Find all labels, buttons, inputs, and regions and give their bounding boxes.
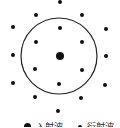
legend: 入射波 衍射波 [0, 120, 120, 127]
grid-dot [104, 54, 108, 58]
grid-dot [34, 40, 38, 44]
small-dot-icon [78, 125, 82, 128]
grid-dot [11, 53, 15, 57]
legend-item-diffracted: 衍射波 [78, 120, 114, 127]
grid-dot [34, 13, 38, 17]
grid-dot [80, 40, 84, 44]
legend-item-incident: 入射波 [24, 120, 63, 127]
grid-dot [80, 13, 84, 17]
grid-dot [11, 81, 15, 85]
grid-dot [11, 25, 15, 29]
grid-dot [56, 109, 60, 113]
grid-dot [58, 26, 62, 30]
grid-dot [103, 83, 107, 87]
grid-dot [57, 82, 61, 86]
center-source-dot [56, 52, 64, 60]
wave-diagram [0, 0, 120, 127]
grid-dot [33, 95, 37, 99]
grid-dot [79, 96, 83, 100]
grid-dot [33, 67, 37, 71]
grid-dot [104, 27, 108, 31]
grid-dot [58, 0, 62, 4]
legend-label: 衍射波 [87, 120, 114, 127]
grid-dot [80, 68, 84, 72]
legend-label: 入射波 [36, 120, 63, 127]
large-dot-icon [24, 123, 31, 127]
